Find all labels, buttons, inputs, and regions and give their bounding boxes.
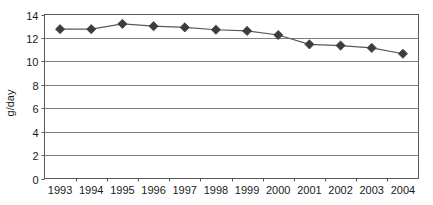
x-tick-label-2001: 2001 — [297, 184, 321, 196]
y-tick-label-4: 4 — [32, 127, 38, 139]
x-tick-label-2002: 2002 — [328, 184, 352, 196]
y-tick-label-6: 6 — [32, 103, 38, 115]
y-tick-label-8: 8 — [32, 80, 38, 92]
y-tick-label-0: 0 — [32, 174, 38, 186]
y-tick-label-12: 12 — [26, 33, 38, 45]
x-tick-label-1994: 1994 — [79, 184, 103, 196]
y-axis-title: g/day — [4, 89, 16, 116]
x-tick-label-1996: 1996 — [141, 184, 165, 196]
x-tick-label-1995: 1995 — [110, 184, 134, 196]
y-tick-label-2: 2 — [32, 150, 38, 162]
x-tick-label-1993: 1993 — [48, 184, 72, 196]
x-tick-label-1997: 1997 — [173, 184, 197, 196]
y-tick-label-10: 10 — [26, 56, 38, 68]
x-tick-label-1999: 1999 — [235, 184, 259, 196]
y-tick-label-14: 14 — [26, 10, 38, 22]
x-tick-label-1998: 1998 — [204, 184, 228, 196]
x-tick-label-2003: 2003 — [360, 184, 384, 196]
x-tick-label-2000: 2000 — [266, 184, 290, 196]
line-chart: 02468101214 1993199419951996199719981999… — [0, 0, 433, 205]
x-tick-label-2004: 2004 — [391, 184, 415, 196]
chart-container: 02468101214 1993199419951996199719981999… — [0, 0, 433, 205]
